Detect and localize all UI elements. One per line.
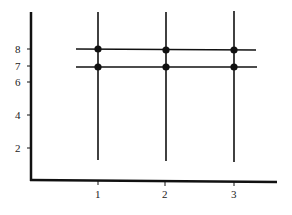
point-3-7: [230, 63, 237, 70]
point-3-8: [230, 46, 237, 53]
point-2-7: [162, 63, 169, 70]
y-tick-label-8: 8: [15, 43, 21, 55]
y-tick-label-4: 4: [15, 109, 21, 121]
point-2-8: [162, 46, 169, 53]
lattice-diagram: 8 7 6 4 2 1 2 3: [0, 0, 292, 215]
x-axis: [30, 180, 277, 182]
point-1-8: [94, 45, 101, 52]
y-tick-label-6: 6: [15, 76, 21, 88]
x-tick-label-3: 3: [231, 188, 237, 200]
point-1-7: [94, 63, 101, 70]
y-tick-label-2: 2: [15, 142, 21, 154]
x-tick-label-2: 2: [162, 188, 168, 200]
vertical-lines: [98, 11, 234, 162]
y-tick-label-7: 7: [15, 60, 21, 72]
x-tick-label-1: 1: [95, 188, 101, 200]
